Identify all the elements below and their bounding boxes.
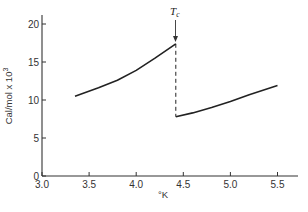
y-axis-label: Cal/mol x 103 — [2, 68, 14, 125]
y-tick-label: 10 — [28, 95, 40, 106]
y-tick-label: 20 — [28, 19, 40, 30]
x-tick-label: 3.5 — [82, 179, 96, 190]
x-tick-label: 5.5 — [271, 179, 285, 190]
y-ticks: 05101520 — [28, 19, 46, 182]
tc-annotation: Tc — [170, 5, 180, 42]
x-tick-label: 3.0 — [35, 179, 49, 190]
tc-arrow-head-icon — [173, 36, 178, 42]
series-line-below-tc — [75, 44, 176, 96]
y-tick-label: 15 — [28, 57, 40, 68]
x-tick-label: 4.0 — [129, 179, 143, 190]
y-tick-label: 5 — [33, 133, 39, 144]
axes — [42, 15, 298, 176]
x-ticks: 3.03.54.04.55.05.5 — [35, 172, 285, 190]
x-tick-label: 4.5 — [176, 179, 190, 190]
tc-label: Tc — [170, 5, 180, 19]
x-axis-label: °K — [158, 189, 169, 200]
x-tick-label: 5.0 — [223, 179, 237, 190]
series-line-above-tc — [176, 86, 278, 117]
chart: 05101520 3.03.54.04.55.05.5 Tc Cal/mol x… — [0, 0, 308, 212]
series-group — [75, 44, 278, 117]
